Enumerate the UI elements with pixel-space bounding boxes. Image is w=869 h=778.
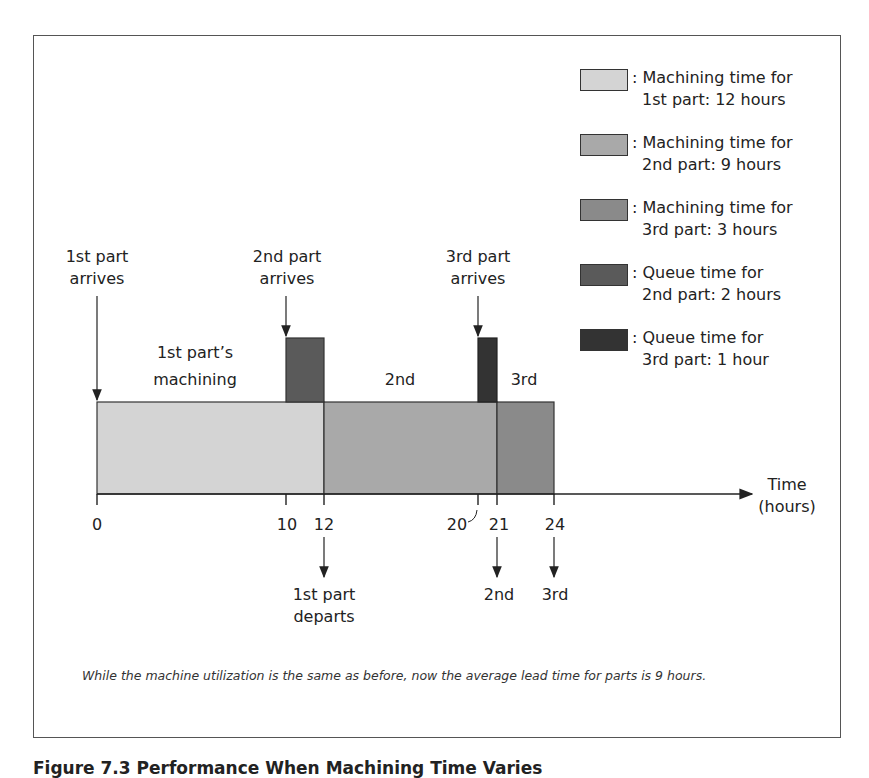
machining1-label-2: machining bbox=[153, 370, 237, 389]
legend-text: 2nd part: 9 hours bbox=[632, 154, 793, 176]
arrive2-label: 2nd part bbox=[253, 247, 321, 266]
tick-10: 10 bbox=[277, 515, 297, 534]
legend-text: : Queue time for bbox=[632, 328, 763, 347]
legend-item-machining-1st: : Machining time for1st part: 12 hours bbox=[580, 67, 793, 111]
legend-item-machining-3rd: : Machining time for3rd part: 3 hours bbox=[580, 197, 793, 241]
legend-text: 3rd part: 3 hours bbox=[632, 219, 793, 241]
depart2-label: 2nd bbox=[484, 585, 514, 604]
legend-item-queue-2nd: : Queue time for2nd part: 2 hours bbox=[580, 262, 781, 306]
tick-20: 20 bbox=[447, 515, 467, 534]
depart3-label: 3rd bbox=[542, 585, 569, 604]
machining1-label: 1st part’s bbox=[157, 343, 233, 362]
legend-item-machining-2nd: : Machining time for2nd part: 9 hours bbox=[580, 132, 793, 176]
bar-queue-part3 bbox=[478, 338, 497, 402]
tick-21: 21 bbox=[489, 515, 509, 534]
arrive2-label-2: arrives bbox=[260, 269, 315, 288]
legend-text: : Queue time for bbox=[632, 263, 763, 282]
figure-note: While the machine utilization is the sam… bbox=[82, 666, 722, 686]
legend-item-queue-3rd: : Queue time for3rd part: 1 hour bbox=[580, 327, 769, 371]
arrive1-label-2: arrives bbox=[70, 269, 125, 288]
bar-machining-part2 bbox=[324, 402, 497, 494]
legend-swatch-icon bbox=[580, 329, 628, 351]
axis-label-time: Time bbox=[766, 475, 806, 494]
legend-swatch-icon bbox=[580, 264, 628, 286]
legend-text: : Machining time for bbox=[632, 198, 793, 217]
arrive1-label: 1st part bbox=[66, 247, 129, 266]
legend-text: 2nd part: 2 hours bbox=[632, 284, 781, 306]
tick-24: 24 bbox=[545, 515, 565, 534]
depart1-label-2: departs bbox=[293, 607, 354, 626]
legend-swatch-icon bbox=[580, 134, 628, 156]
tick-0: 0 bbox=[92, 515, 102, 534]
legend-text: 1st part: 12 hours bbox=[632, 89, 793, 111]
bar-machining-part3 bbox=[497, 402, 554, 494]
legend-swatch-icon bbox=[580, 199, 628, 221]
axis-label-hours: (hours) bbox=[758, 497, 815, 516]
machining3-label: 3rd bbox=[511, 370, 538, 389]
bar-machining-part1 bbox=[97, 402, 324, 494]
legend-text: : Machining time for bbox=[632, 68, 793, 87]
arrive3-label-2: arrives bbox=[451, 269, 506, 288]
legend-text: : Machining time for bbox=[632, 133, 793, 152]
depart1-label: 1st part bbox=[293, 585, 356, 604]
tick-20-pointer bbox=[468, 510, 477, 522]
tick-12: 12 bbox=[314, 515, 334, 534]
legend-swatch-icon bbox=[580, 69, 628, 91]
bar-queue-part2 bbox=[286, 338, 324, 402]
figure-caption: Figure 7.3 Performance When Machining Ti… bbox=[33, 758, 542, 778]
arrive3-label: 3rd part bbox=[446, 247, 511, 266]
legend-text: 3rd part: 1 hour bbox=[632, 349, 769, 371]
machining2-label: 2nd bbox=[385, 370, 415, 389]
